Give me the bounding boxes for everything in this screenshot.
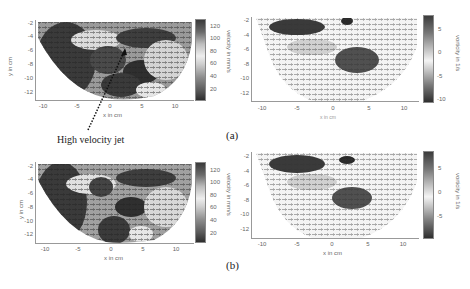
xtick: 5	[360, 241, 376, 247]
ytick: -6	[235, 46, 249, 52]
xtick: -10	[254, 105, 270, 111]
colorbar-tick: -5	[437, 73, 442, 79]
ytick: -6	[235, 182, 249, 188]
colorbar-tick: 40	[210, 217, 217, 223]
xtick: -10	[37, 246, 53, 252]
ytick: -4	[19, 176, 33, 182]
xtick: 5	[135, 246, 151, 252]
annotation-label: High velocity jet	[57, 134, 124, 145]
ytick: -12	[235, 226, 249, 232]
ytick: -12	[19, 231, 33, 237]
colorbar-tick: 80	[210, 192, 217, 198]
colorbar-tick: 100	[210, 179, 220, 185]
x-axis-label: x in cm	[320, 114, 336, 120]
vorticity-field-image	[252, 17, 419, 101]
vorticity-field-image	[252, 152, 419, 238]
ytick: -4	[235, 168, 249, 174]
xtick: 0	[325, 105, 341, 111]
velocity-field-image	[36, 162, 194, 243]
annotation-arrow	[0, 0, 235, 140]
xtick: -5	[70, 246, 86, 252]
colorbar-tick: 5	[438, 26, 441, 32]
velocity-colorbar	[195, 162, 206, 243]
ytick: -2	[19, 163, 33, 169]
ytick: -6	[19, 190, 33, 196]
vorticity-colorbar	[423, 151, 434, 239]
ytick: -10	[235, 75, 249, 81]
colorbar-tick: 0	[438, 189, 441, 195]
colorbar-tick: 20	[210, 230, 217, 236]
xtick: 10	[396, 105, 412, 111]
colorbar-label: vorticity in 1/s	[455, 173, 461, 209]
xtick: 10	[395, 241, 411, 247]
colorbar-label: vorticity in 1/s	[455, 35, 461, 71]
ytick: -2	[235, 153, 249, 159]
colorbar-label: velocity in mm/s	[226, 173, 232, 216]
xtick: 0	[103, 246, 119, 252]
colorbar-tick: 120	[210, 167, 220, 173]
vorticity-colorbar	[423, 15, 434, 103]
ytick: -4	[235, 32, 249, 38]
xtick: -5	[289, 241, 305, 247]
colorbar-tick: -5	[437, 213, 442, 219]
velocity-field-plot-b	[35, 162, 194, 244]
colorbar-tick: -10	[437, 96, 446, 102]
xtick: 0	[324, 241, 340, 247]
xtick: -10	[254, 241, 270, 247]
ytick: -2	[235, 17, 249, 23]
colorbar-tick: 0	[438, 49, 441, 55]
panel-a-vorticity: -2 -4 -6 -8 -10 -12 -10 -5 0 5 10 x in c…	[235, 0, 470, 135]
vorticity-field-plot-b	[251, 152, 419, 239]
xtick: -5	[289, 105, 305, 111]
panel-b-vorticity: -2 -4 -6 -8 -10 -12 -10 -5 0 5 10 x in c…	[235, 145, 470, 289]
ytick: -12	[235, 90, 249, 96]
x-axis-label: x in cm	[104, 255, 123, 261]
ytick: -8	[235, 61, 249, 67]
colorbar-tick: 60	[210, 204, 217, 210]
xtick: 5	[361, 105, 377, 111]
x-axis-label: x in cm	[323, 250, 342, 256]
colorbar-tick: 5	[438, 165, 441, 171]
y-axis-label: y in cm	[18, 200, 24, 219]
ytick: -10	[235, 211, 249, 217]
vorticity-field-plot-a	[251, 17, 419, 102]
ytick: -8	[235, 197, 249, 203]
panel-b-velocity: -2 -4 -6 -8 -10 -12 -10 -5 0 5 10 x in c…	[0, 145, 235, 289]
xtick: 10	[168, 246, 184, 252]
